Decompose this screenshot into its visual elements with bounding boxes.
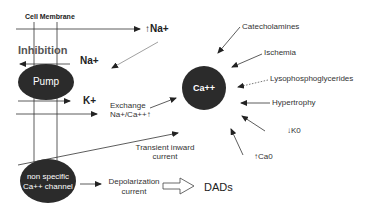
calcium-label: Ca++ bbox=[184, 84, 224, 93]
channel-label-line2: Ca++ channel bbox=[18, 183, 78, 191]
transient-label-line1: Transient inward bbox=[125, 144, 205, 152]
factor-k-low: ↓K0 bbox=[287, 127, 301, 135]
factor-ischemia: Ischemia bbox=[264, 49, 296, 57]
pump-label: Pump bbox=[26, 77, 66, 87]
channel-label-line1: non specific bbox=[18, 173, 78, 181]
transient-label-line2: current bbox=[125, 153, 205, 161]
cell-membrane-label: Cell Membrane bbox=[25, 13, 75, 20]
factor-ca-high: ↑Ca0 bbox=[254, 153, 273, 161]
factor-hypertrophy: Hypertrophy bbox=[272, 99, 316, 107]
catecholamines-arrow bbox=[218, 27, 240, 53]
lysophosphoglycerides-arrow bbox=[238, 80, 268, 87]
channel-node bbox=[20, 159, 76, 203]
exchange-label-line1: Exchange bbox=[110, 102, 146, 110]
dads-label: DADs bbox=[204, 182, 233, 193]
na-rise-label: ↑Na+ bbox=[145, 24, 169, 34]
k-label: K+ bbox=[83, 96, 96, 106]
exchange-label-line2: Na+/Ca++↑ bbox=[110, 111, 151, 119]
ca-high-arrow bbox=[231, 129, 243, 155]
exchange-to-ca-arrow bbox=[150, 98, 176, 108]
na-feedback-arrow bbox=[112, 42, 158, 68]
dads-block-arrow bbox=[163, 178, 194, 194]
k-low-arrow bbox=[242, 116, 265, 131]
inhibition-label: Inhibition bbox=[18, 45, 67, 56]
factor-lysophosphoglycerides: Lysophosphoglycerides bbox=[270, 75, 353, 83]
factor-catecholamines: Catecholamines bbox=[242, 23, 299, 31]
depolarization-label-line1: Depolarization bbox=[104, 178, 164, 186]
depolarization-label-line2: current bbox=[104, 188, 164, 196]
na-out-label: Na+ bbox=[80, 56, 99, 66]
ischemia-arrow bbox=[232, 54, 262, 67]
